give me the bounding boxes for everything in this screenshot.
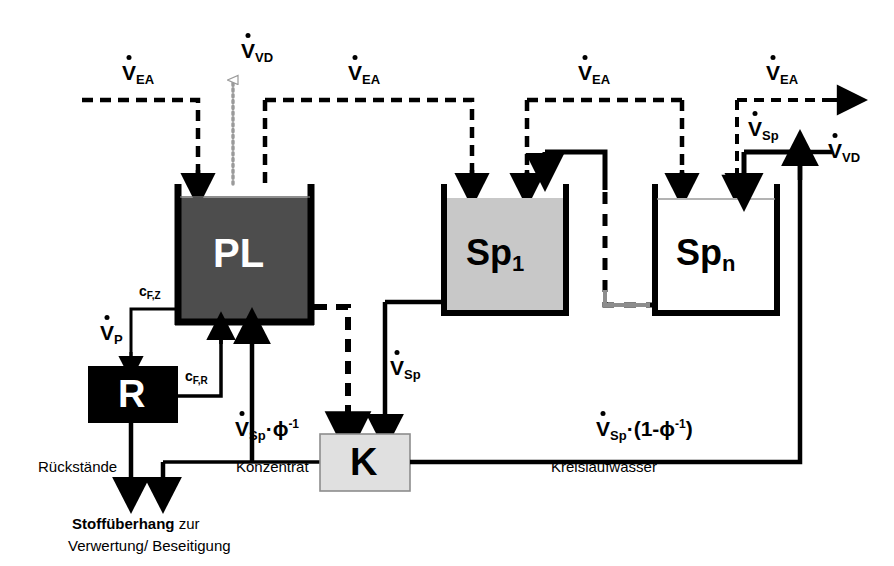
- flow-label-vvd-right: VVD: [828, 140, 860, 161]
- flow-label-vsp-recirc: VSp·(1-ϕ-1): [596, 418, 693, 439]
- tank-label-spn: Spn: [676, 232, 735, 274]
- flow-label-vea-4: VEA: [766, 62, 798, 83]
- caption-rest-part: zur: [175, 515, 200, 532]
- caption-bold-part: Stoffüberhang: [72, 515, 175, 532]
- box-label-k: K: [350, 441, 377, 484]
- vea-duct-2: [265, 100, 472, 190]
- flow-label-vp: VP: [100, 322, 123, 343]
- process-flow-diagram: VEA VVD VEA VEA VEA VSp VVD PL Sp1 Spn c…: [0, 0, 894, 566]
- flow-label-vsp-mid: VSp: [390, 357, 421, 378]
- pl-overflow-dashed-to-k: [314, 307, 348, 434]
- concentration-label-cfz: cF,Z: [139, 284, 161, 298]
- tank-label-sp1: Sp1: [466, 232, 524, 274]
- cfz-line-pl-to-r: [131, 309, 178, 368]
- caption-line-2: Verwertung/ Beseitigung: [68, 537, 231, 554]
- label-kreislaufwasser: Kreislaufwasser: [551, 459, 657, 474]
- concentration-label-cfr: cF,R: [185, 369, 208, 383]
- label-konzentrat: Konzentrat: [236, 459, 309, 474]
- flow-label-vsp-right: VSp: [748, 118, 779, 139]
- flow-label-vsp-phi: VSp·ϕ-1: [235, 418, 299, 439]
- caption-line-1: Stoffüberhang zur: [72, 515, 200, 532]
- box-label-r: R: [118, 373, 145, 416]
- vsp-right-feed: [744, 152, 800, 192]
- flow-label-vvd-top: VVD: [241, 40, 273, 61]
- tank-label-pl: PL: [213, 231, 264, 276]
- label-rueckstaende: Rückstände: [38, 459, 117, 474]
- flow-label-vea-1: VEA: [122, 62, 154, 83]
- vea-duct-1: [82, 100, 198, 190]
- flow-label-vea-2: VEA: [348, 62, 380, 83]
- diagram-canvas: [0, 0, 894, 566]
- flow-label-vea-3: VEA: [578, 62, 610, 83]
